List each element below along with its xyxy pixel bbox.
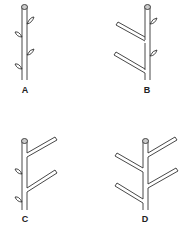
panel-a-stem xyxy=(15,5,34,81)
panel-label-c: C xyxy=(22,214,29,224)
panel-label-b: B xyxy=(144,85,151,95)
panel-d-stem xyxy=(115,137,178,210)
bud-icon xyxy=(15,64,22,69)
panel-c-stem xyxy=(15,137,57,210)
bud-icon xyxy=(27,49,34,55)
panel-label-a: A xyxy=(22,85,29,95)
panel-label-d: D xyxy=(142,214,149,224)
bud-icon xyxy=(150,18,157,24)
branching-diagram xyxy=(0,0,187,225)
bud-icon xyxy=(15,32,22,37)
bud-icon xyxy=(150,50,157,56)
bud-icon xyxy=(15,197,22,202)
bud-icon xyxy=(27,17,34,24)
panel-b-stem xyxy=(114,5,157,81)
bud-icon xyxy=(15,169,22,174)
